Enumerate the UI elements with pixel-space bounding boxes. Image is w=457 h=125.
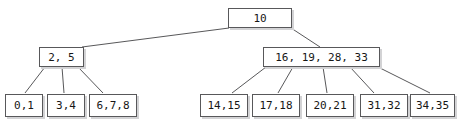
- tree-node-int-right: 16, 19, 28, 33: [263, 47, 380, 67]
- tree-edge: [62, 67, 64, 93]
- tree-node-label: 0,1: [14, 99, 34, 112]
- tree-edge: [378, 67, 430, 93]
- tree-node-label: 3,4: [56, 99, 76, 112]
- tree-node-int-left: 2, 5: [39, 47, 84, 67]
- tree-edge: [82, 28, 229, 47]
- tree-edge: [350, 67, 374, 93]
- tree-node-leaf-7: 31,32: [360, 94, 408, 117]
- tree-node-leaf-6: 20,21: [306, 94, 354, 117]
- tree-node-label: 14,15: [207, 99, 240, 112]
- tree-edge: [232, 67, 266, 93]
- tree-edge: [278, 67, 293, 93]
- tree-node-label: 31,32: [367, 99, 400, 112]
- tree-edge: [78, 67, 103, 93]
- tree-edge: [291, 28, 320, 47]
- tree-edge: [25, 67, 45, 93]
- tree-node-label: 10: [253, 12, 266, 25]
- tree-node-label: 6,7,8: [96, 99, 129, 112]
- tree-node-label: 17,18: [259, 99, 292, 112]
- tree-node-label: 2, 5: [48, 51, 75, 64]
- tree-node-label: 34,35: [416, 99, 449, 112]
- tree-node-root: 10: [228, 8, 292, 28]
- tree-node-label: 16, 19, 28, 33: [275, 51, 368, 64]
- tree-node-leaf-3: 6,7,8: [89, 94, 137, 117]
- tree-node-leaf-1: 0,1: [5, 94, 43, 117]
- btree-diagram: 102, 516, 19, 28, 330,13,46,7,814,1517,1…: [0, 0, 457, 125]
- tree-node-leaf-4: 14,15: [200, 94, 248, 117]
- tree-node-label: 20,21: [313, 99, 346, 112]
- tree-node-leaf-8: 34,35: [410, 94, 455, 117]
- tree-node-leaf-5: 17,18: [252, 94, 300, 117]
- tree-edge: [323, 67, 327, 93]
- tree-node-leaf-2: 3,4: [47, 94, 85, 117]
